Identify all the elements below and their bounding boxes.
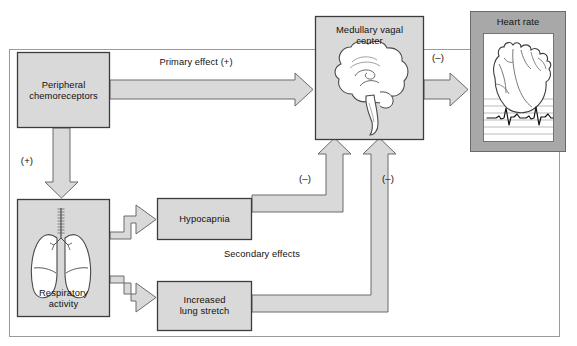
edge-lung-stretch-to-medulla xyxy=(252,138,396,312)
diagram-canvas: Peripheral chemoreceptors Respiratory ac… xyxy=(0,0,577,346)
node-peripheral-chemoreceptors xyxy=(18,53,110,128)
node-increased-lung-stretch xyxy=(158,282,252,331)
edge-respiratory-to-lung-stretch xyxy=(110,276,156,312)
node-heart-rate xyxy=(471,12,566,152)
node-medullary-vagal-center xyxy=(316,17,424,140)
edge-medulla-to-heart-rate xyxy=(424,73,468,106)
node-respiratory-activity xyxy=(18,200,110,317)
edge-chemoreceptors-to-medulla xyxy=(110,73,313,106)
node-hypocapnia xyxy=(158,199,252,240)
edge-respiratory-to-hypocapnia xyxy=(110,205,156,239)
edge-hypocapnia-to-medulla xyxy=(252,138,351,212)
diagram-graphics xyxy=(0,0,577,346)
edge-chemoreceptors-to-respiratory xyxy=(45,128,78,198)
